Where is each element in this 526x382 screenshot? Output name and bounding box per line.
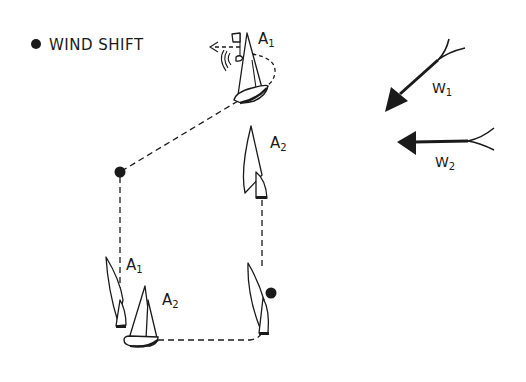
- wind-shift-legend-dot-icon: [31, 39, 41, 49]
- track-bottom: [158, 330, 262, 340]
- boat-a1-bottom-label: A1: [126, 256, 143, 275]
- sailing-tactics-diagram: WIND SHIFT A1: [0, 0, 526, 382]
- legend: WIND SHIFT: [31, 36, 144, 54]
- boat-a2-bottom-label: A2: [162, 291, 179, 310]
- wind-w2-label: W2: [435, 154, 455, 172]
- boat-a1-top-label: A1: [258, 30, 275, 49]
- wind-w1-label: W1: [432, 80, 452, 98]
- wind-shift-point-2-icon: [266, 288, 277, 299]
- boat-a2-bottom-icon: [124, 286, 158, 347]
- boat-a1-bottom-icon: [106, 257, 126, 328]
- boat-a2-top-label: A2: [270, 134, 287, 153]
- wind-w1-arrow-icon: [385, 39, 465, 112]
- boat-right-bottom-icon: [248, 263, 269, 335]
- wind-w2-arrow-icon: [397, 128, 494, 155]
- legend-label: WIND SHIFT: [49, 36, 144, 54]
- wind-shift-point-1-icon: [115, 167, 126, 178]
- boat-a2-top-icon: [243, 126, 267, 199]
- track-a1-upper: [120, 101, 238, 172]
